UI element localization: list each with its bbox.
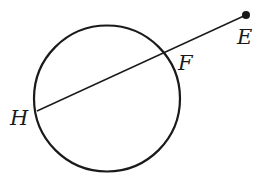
point-E-dot bbox=[242, 11, 250, 19]
label-F: F bbox=[177, 51, 194, 75]
label-H: H bbox=[9, 106, 29, 130]
circle bbox=[34, 26, 180, 172]
diagram-svg: E F H bbox=[0, 0, 269, 185]
secant-segment-EH bbox=[37, 15, 246, 111]
geometry-diagram: E F H bbox=[0, 0, 269, 185]
label-E: E bbox=[236, 25, 252, 49]
